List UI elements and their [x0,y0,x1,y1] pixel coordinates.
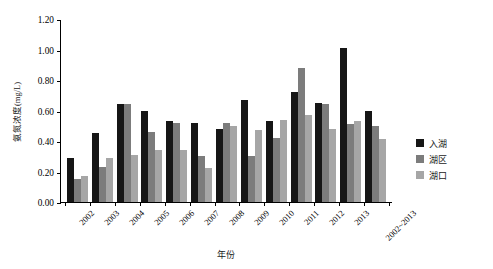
bar [365,111,372,203]
legend-swatch [416,155,424,163]
bar [117,104,124,202]
bar [291,92,298,202]
bar [230,126,237,202]
chart-legend: 入湖湖区湖口 [416,135,447,183]
x-axis-label-cell: 2005 [139,203,164,249]
bar [191,123,198,202]
bar [99,167,106,202]
bar-group [189,20,214,202]
bar [315,103,322,202]
x-axis-label-cell: 2012 [313,203,338,249]
bar [106,158,113,202]
legend-label: 湖口 [429,169,447,182]
x-axis-label-cell: 2006 [164,203,189,249]
bar-group [140,20,165,202]
bar-group [214,20,239,202]
bar-group [338,20,363,202]
x-axis-label-cell: 2011 [288,203,313,249]
x-axis-label-cell: 2007 [189,203,214,249]
bar [322,104,329,202]
x-axis-label-cell: 2002 [64,203,89,249]
bar [248,156,255,202]
bar-group [90,20,115,202]
bar-group [363,20,388,202]
bar [298,68,305,202]
bar [67,158,74,202]
bar [347,124,354,202]
legend-item: 入湖 [416,135,447,151]
bar [241,100,248,202]
x-axis-label: 2002~2013 [383,208,418,243]
x-axis-label-cell: 2010 [263,203,288,249]
bar [255,130,262,202]
y-axis-tick-label: 0.40 [38,137,54,147]
y-axis-title: 氨氮浓度(mg/L) [10,52,22,172]
y-axis-tick-label: 0.00 [38,198,54,208]
x-axis-label-cell: 2004 [114,203,139,249]
bar [180,150,187,202]
bar [329,129,336,202]
bar [340,48,347,202]
y-axis-tick-label: 1.20 [38,15,54,25]
bar [155,150,162,202]
bar [266,121,273,202]
bar [141,111,148,203]
bar [173,123,180,202]
bar [216,129,223,202]
ammonia-nitrogen-bar-chart: 氨氮浓度(mg/L) 0.000.200.400.600.801.001.20 … [0,0,493,269]
bar [273,138,280,202]
bar-group [115,20,140,202]
bar [148,132,155,202]
bar [131,155,138,202]
bar [74,179,81,202]
y-axis-tick-label: 0.60 [38,107,54,117]
y-axis-tick-label: 0.20 [38,168,54,178]
bar [81,176,88,202]
bar [166,121,173,202]
bar [305,115,312,202]
bar-groups [61,20,392,202]
bar [198,156,205,202]
legend-item: 湖口 [416,167,447,183]
bar-group [313,20,338,202]
bar-group [164,20,189,202]
x-axis-label-cell: 2009 [238,203,263,249]
legend-label: 入湖 [429,137,447,150]
bar [92,133,99,202]
bar [124,104,131,202]
x-axis-labels: 2002200320042005200620072008200920102011… [60,203,392,249]
bar [372,126,379,202]
bar [354,121,361,202]
bar-group [289,20,314,202]
bar-group [264,20,289,202]
y-axis-tick-label: 0.80 [38,76,54,86]
bar-group [239,20,264,202]
bar [379,139,386,202]
x-axis-label-cell: 2013 [338,203,363,249]
x-axis-label-cell: 2008 [214,203,239,249]
bar [280,120,287,202]
legend-label: 湖区 [429,153,447,166]
legend-swatch [416,139,424,147]
bar [223,123,230,202]
bar [205,168,212,202]
x-axis-label-cell: 2002~2013 [363,203,388,249]
bar-group [65,20,90,202]
plot-area: 0.000.200.400.600.801.001.20 [60,20,392,203]
x-axis-label-cell: 2003 [89,203,114,249]
legend-item: 湖区 [416,151,447,167]
y-axis-tick-label: 1.00 [38,46,54,56]
legend-swatch [416,171,424,179]
x-axis-title: 年份 [0,248,452,261]
